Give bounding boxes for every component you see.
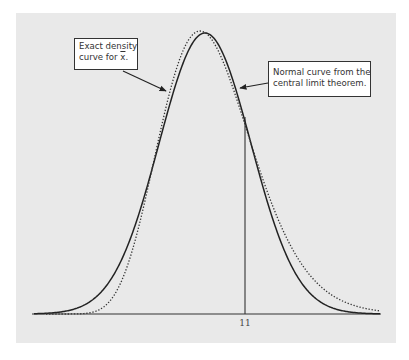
exact-line2-suffix: . [125,52,128,62]
density-chart [0,0,409,360]
normal-callout-line1: Normal curve from the [273,67,366,78]
exact-callout-line2: curve for x. [79,52,133,63]
exact-callout-line1: Exact density [79,41,133,52]
exact-density-callout: Exact density curve for x. [74,38,138,70]
exact-arrow [123,71,166,91]
normal-arrow [240,83,268,88]
normal-curve-callout: Normal curve from the central limit theo… [268,61,371,97]
exact-line2-prefix: curve for [79,52,120,62]
normal-callout-line2: central limit theorem. [273,78,366,89]
x-tick-label-11: 11 [239,318,250,328]
